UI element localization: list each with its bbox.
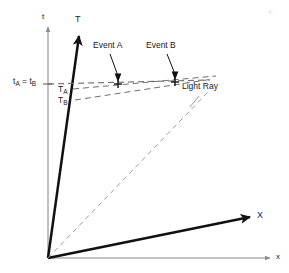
T-axis-label: T — [75, 15, 81, 24]
event-b-leader-arrow — [167, 54, 178, 80]
T-axis-line — [48, 36, 79, 258]
tick-label-capital-t-a-subscript: A — [63, 88, 67, 95]
x-axis-label: x — [276, 253, 280, 261]
tick-label-capital-t-a: TA — [58, 85, 68, 94]
X-axis-label: X — [257, 211, 263, 220]
t-axis-label: t — [42, 13, 44, 21]
event-b-label: Event B — [146, 41, 176, 50]
spacetime-diagram: t T X x tA = tB TA TB Event A Event B Li… — [0, 0, 289, 273]
light-ray-label: Light Ray — [182, 82, 218, 91]
light-ray-line — [48, 92, 208, 258]
X-axis-line — [48, 217, 250, 258]
diagram-canvas — [0, 0, 289, 273]
tick-label-tb-subscript: B — [32, 80, 36, 87]
event-a-label: Event A — [93, 41, 122, 50]
tick-label-ta-equals-tb: tA = tB — [13, 77, 36, 86]
page-artifact-mark — [267, 9, 273, 15]
tick-label-equals: = — [20, 76, 30, 86]
tick-label-capital-t-b-subscript: B — [63, 99, 67, 106]
tick-label-ta-subscript: A — [15, 80, 19, 87]
tick-label-capital-t-b: TB — [58, 96, 68, 105]
event-a-leader-arrow — [110, 54, 121, 82]
